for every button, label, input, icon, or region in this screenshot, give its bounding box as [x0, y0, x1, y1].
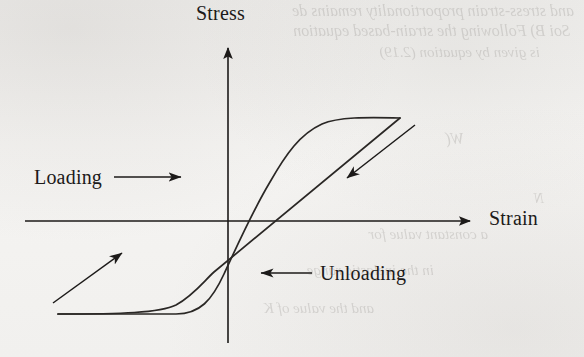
loading-direction-arrow: [53, 253, 122, 303]
figure-page: and stress-strain proportionality remain…: [0, 0, 584, 357]
x-axis-label-strain: Strain: [489, 207, 538, 230]
annotation-loading: Loading: [34, 166, 102, 189]
y-axis-label-stress: Stress: [196, 2, 245, 25]
annotation-unloading: Unloading: [320, 262, 406, 285]
